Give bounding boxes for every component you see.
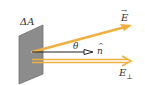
perpendicular-component-arrow [32, 56, 131, 66]
area-element-plate [19, 25, 43, 84]
field-vector-E [32, 24, 132, 52]
area-label-text: ΔA [19, 16, 34, 27]
field-vector-mark: → [121, 7, 127, 15]
angle-label: θ [73, 41, 79, 51]
area-label: ΔA [19, 16, 34, 27]
perp-label-sub: ⊥ [126, 73, 133, 81]
flux-diagram: ΔA E → E⊥ n ^ θ [0, 0, 145, 85]
perp-label: E⊥ [118, 67, 133, 81]
normal-hat: ^ [98, 42, 104, 50]
